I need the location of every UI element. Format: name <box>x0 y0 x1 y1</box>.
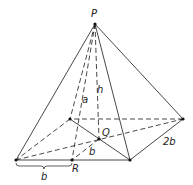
label-b-inner: b <box>89 146 95 157</box>
edge-P-A <box>16 24 95 160</box>
edge-P-C <box>95 24 183 119</box>
label-a: a <box>82 94 88 105</box>
vertex-A <box>14 158 17 161</box>
label-b-bracket: b <box>41 171 47 182</box>
vertex-Q <box>97 137 100 140</box>
label-2b: 2b <box>163 136 176 147</box>
label-R: R <box>72 163 79 174</box>
label-h: h <box>97 84 103 95</box>
vertex-P <box>93 22 96 25</box>
label-P: P <box>91 8 98 19</box>
dimension-bracket-b <box>16 163 72 169</box>
pyramid-diagram: P Q R a h b b 2b <box>0 0 193 185</box>
edge-D-A <box>16 119 70 160</box>
edge-P-Q-height <box>95 24 99 139</box>
vertex-C <box>181 117 184 120</box>
label-Q: Q <box>102 127 110 138</box>
vertex-D <box>68 117 71 120</box>
vertex-B <box>128 158 131 161</box>
vertex-R <box>70 158 73 161</box>
